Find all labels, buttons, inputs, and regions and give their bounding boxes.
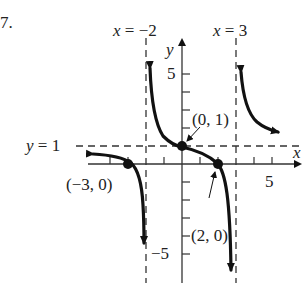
pointer-2-0 [209, 172, 215, 198]
tick-label-yneg5: −5 [151, 244, 169, 263]
problem-number: 7. [0, 13, 13, 32]
pointer-0-1 [187, 127, 200, 141]
tick-label-x5: 5 [265, 172, 274, 191]
point-label-2-0: (2, 0) [191, 226, 228, 245]
curve-left-branch [93, 154, 144, 243]
asymptote-label-left: x = −2 [112, 21, 157, 40]
y-axis-label: y [164, 40, 174, 59]
point-label-0-1: (0, 1) [192, 110, 229, 129]
point-0-1 [177, 141, 187, 151]
asymptote-label-horizontal: y = 1 [24, 136, 60, 155]
point-label-neg3-0: (−3, 0) [66, 175, 112, 194]
tick-label-y5: 5 [167, 64, 176, 83]
curve-right-branch [241, 72, 278, 132]
point-neg3-0 [123, 159, 133, 169]
asymptote-label-right: x = 3 [212, 21, 247, 40]
point-2-0 [213, 159, 223, 169]
graph: 7. [0, 0, 307, 283]
x-ticks [110, 157, 272, 164]
x-axis-label: x [292, 143, 301, 162]
